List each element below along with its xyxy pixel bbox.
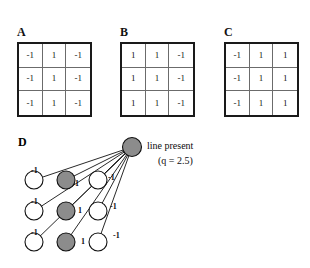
grid-cell: 1 [146,44,170,68]
grid-cell: 1 [43,44,67,68]
panel-c: C -1 1 1 -1 1 1 -1 1 1 [224,26,310,116]
weight-label-c3-r1: -1 [108,174,115,182]
edge-c2-r3 [66,147,132,242]
input-node-c2-r3 [57,233,75,251]
input-node-c3-r2 [89,202,107,220]
grid-cell: 1 [250,68,274,92]
output-label-threshold: (q = 2.5) [158,155,193,166]
input-node-c2-r1 [57,171,75,189]
grid-cell: -1 [169,68,193,92]
edge-c1-r2 [34,147,132,211]
weight-label-c2-r1: 1 [75,180,79,188]
weight-label-c2-r3: 1 [81,238,85,246]
output-node [123,138,142,157]
panel-b-label: B [120,26,128,38]
grid-cell: -1 [226,44,250,68]
network-edges [34,147,132,242]
grid-cell: 1 [250,44,274,68]
grid-cell: -1 [226,91,250,115]
input-node-c2-r2 [57,202,75,220]
panel-a: A -1 1 -1 -1 1 -1 -1 1 -1 [17,26,107,116]
grid-cell: -1 [226,68,250,92]
grid-cell: 1 [43,91,67,115]
grid-cell: 1 [250,91,274,115]
output-label-line-present: line present [147,140,193,151]
input-nodes [25,171,107,251]
weight-label-c2-r2: 1 [78,207,82,215]
grid-cell: -1 [66,44,90,68]
grid-cell: -1 [19,44,43,68]
grid-cell: -1 [66,91,90,115]
grid-cell: -1 [169,91,193,115]
weight-label-c1-r3: -1 [31,229,38,237]
grid-cell: -1 [66,68,90,92]
weight-label-c3-r3: -1 [113,232,120,240]
grid-cell: 1 [43,68,67,92]
panel-a-label: A [17,26,26,38]
panel-b: B 1 1 -1 1 1 -1 1 1 -1 [120,26,210,116]
pattern-grid-c: -1 1 1 -1 1 1 -1 1 1 [224,42,299,117]
grid-cell: -1 [19,68,43,92]
figure-canvas: A -1 1 -1 -1 1 -1 -1 1 -1 B 1 1 -1 1 1 -… [0,0,310,268]
grid-cell: 1 [122,91,146,115]
grid-cell: 1 [146,91,170,115]
grid-cell: -1 [169,44,193,68]
pattern-grid-a: -1 1 -1 -1 1 -1 -1 1 -1 [17,42,92,117]
weight-label-c3-r2: -1 [110,203,117,211]
input-node-c3-r3 [89,233,107,251]
input-node-c3-r1 [89,171,107,189]
weight-label-c1-r1: -1 [31,167,38,175]
pattern-grid-b: 1 1 -1 1 1 -1 1 1 -1 [120,42,195,117]
panel-c-label: C [224,26,233,38]
grid-cell: -1 [19,91,43,115]
grid-cell: 1 [146,68,170,92]
grid-cell: 1 [273,44,297,68]
weight-label-c1-r2: -1 [31,198,38,206]
grid-cell: 1 [273,91,297,115]
grid-cell: 1 [122,68,146,92]
grid-cell: 1 [122,44,146,68]
grid-cell: 1 [273,68,297,92]
